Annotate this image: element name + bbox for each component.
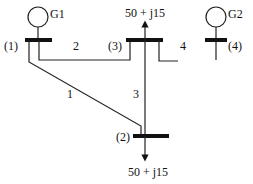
line-4-label: 4	[180, 39, 186, 53]
generator-g1-label: G1	[50, 7, 65, 21]
line-2-label: 2	[73, 39, 79, 53]
line-1-label: 1	[67, 87, 73, 101]
line-1: 1	[29, 40, 141, 136]
line-4: 4	[159, 39, 186, 61]
line-1-path	[29, 40, 141, 136]
load-bus-2-label: 50 + j15	[128, 165, 168, 179]
line-3-label: 3	[133, 87, 139, 101]
bus-4-label: (4)	[228, 39, 242, 53]
load-bus-2: 50 + j15	[128, 136, 168, 179]
generator-g2-icon	[206, 7, 226, 27]
bus-1-label: (1)	[4, 39, 18, 53]
bus-4: (4)	[205, 39, 242, 53]
bus-2-label: (2)	[116, 130, 130, 144]
load-bus-3-label: 50 + j15	[125, 6, 165, 20]
generator-g1: G1	[28, 7, 65, 40]
load-bus-3: 50 + j15	[125, 6, 165, 40]
bus-1: (1)	[4, 39, 52, 53]
bus-2: (2)	[116, 130, 169, 144]
generator-g2-label: G2	[228, 7, 243, 21]
bus-3-label: (3)	[108, 39, 122, 53]
generator-g1-icon	[28, 7, 48, 27]
one-line-diagram: G1 (1) 2 1 (3) 50 + j15 3 4 G2	[0, 0, 253, 184]
line-3: 3	[133, 40, 145, 136]
line-4-path	[159, 40, 178, 61]
bus-3: (3)	[108, 39, 163, 53]
